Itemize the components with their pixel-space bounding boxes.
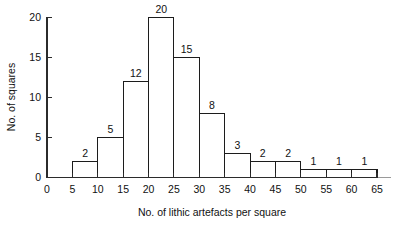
y-axis-tick-label: 10 [29, 91, 41, 103]
x-axis-tick-label: 0 [44, 183, 50, 195]
x-axis-tick-label: 30 [193, 183, 205, 195]
bar-value-label: 2 [260, 147, 266, 159]
bar-value-label: 3 [234, 139, 240, 151]
histogram-bar [149, 18, 174, 178]
x-axis-title: No. of lithic artefacts per square [138, 206, 286, 218]
x-axis-tick-label: 25 [168, 183, 180, 195]
x-axis-tick-label: 5 [69, 183, 75, 195]
histogram-bar [123, 82, 148, 178]
bar-value-label: 5 [108, 123, 114, 135]
bar-value-label: 15 [181, 43, 193, 55]
histogram-bar [326, 170, 351, 178]
x-axis-tick-label: 45 [270, 183, 282, 195]
bar-value-label: 2 [285, 147, 291, 159]
y-axis-tick-label: 20 [29, 11, 41, 23]
bar-value-label: 8 [209, 99, 215, 111]
y-axis-tick-label: 0 [35, 171, 41, 183]
x-axis-tick-label: 40 [244, 183, 256, 195]
x-axis-tick-label: 20 [143, 183, 155, 195]
x-axis-tick-label: 65 [371, 183, 383, 195]
histogram-bar [275, 162, 300, 178]
y-axis-tick-label: 15 [29, 51, 41, 63]
histogram-bar [199, 114, 224, 178]
bar-value-label: 1 [336, 155, 342, 167]
histogram-figure: 251220158322111 051015202530354045505560… [0, 0, 404, 229]
bar-value-label: 20 [155, 3, 167, 15]
bar-value-label: 12 [130, 67, 142, 79]
histogram-bar [225, 154, 250, 178]
y-axis-tick-label: 5 [35, 131, 41, 143]
histogram-bar [98, 138, 123, 178]
bar-value-label: 2 [82, 147, 88, 159]
bar-value-label: 1 [361, 155, 367, 167]
x-axis-tick-label: 10 [92, 183, 104, 195]
x-axis-tick-label: 50 [295, 183, 307, 195]
x-axis-tick-label: 35 [219, 183, 231, 195]
y-axis-title: No. of squares [5, 63, 17, 131]
x-axis-tick-label: 15 [117, 183, 129, 195]
bar-value-label: 1 [311, 155, 317, 167]
histogram-bar [250, 162, 275, 178]
x-axis-tick-label: 55 [320, 183, 332, 195]
histogram-plot: 251220158322111 051015202530354045505560… [0, 0, 404, 229]
x-axis-tick-label: 60 [346, 183, 358, 195]
histogram-bar [301, 170, 326, 178]
histogram-bar [174, 58, 199, 178]
histogram-bar [352, 170, 377, 178]
histogram-bar [72, 162, 97, 178]
